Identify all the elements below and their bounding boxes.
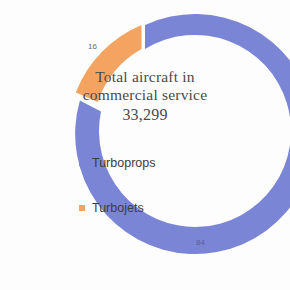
donut-svg (0, 0, 290, 290)
donut-chart: Total aircraft in commercial service 33,… (0, 0, 290, 290)
legend-swatch-icon-turboprops (79, 160, 85, 166)
legend-item-turboprops[interactable]: Turboprops (65, 152, 225, 174)
slice-turbojets[interactable] (76, 25, 142, 102)
legend-item-turbojets[interactable]: Turbojets (65, 197, 225, 219)
legend-label-turboprops: Turboprops (92, 156, 155, 170)
chart-legend: Turboprops Turbojets (65, 152, 225, 219)
legend-swatch-icon-turbojets (79, 205, 85, 211)
legend-label-turbojets: Turbojets (92, 201, 144, 215)
